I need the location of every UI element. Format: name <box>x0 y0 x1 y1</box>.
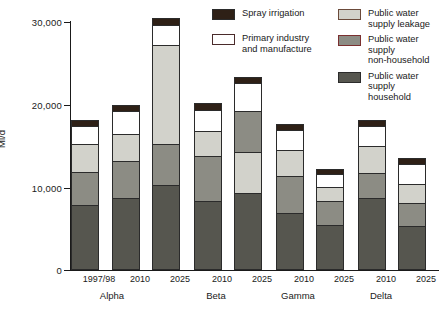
bar-segment <box>235 112 261 153</box>
bar-Alpha-2025[interactable] <box>152 18 180 270</box>
bar-segment <box>195 132 221 157</box>
bar-Delta-2010[interactable] <box>358 120 386 270</box>
bar-segment <box>277 177 303 214</box>
bar-segment <box>113 162 139 199</box>
x-group-label-alpha: Alpha <box>72 290 152 301</box>
legend-swatch-icon <box>338 72 361 83</box>
legend-item[interactable]: Public water supply household <box>338 71 446 103</box>
bar-segment <box>72 127 98 145</box>
chart-root: 30,000 20,000 10,000 0 Ml/d 1997/9820102… <box>0 0 447 321</box>
bar-segment <box>195 157 221 202</box>
bar-segment <box>277 131 303 151</box>
legend-column-right: Public water supply leakagePublic water … <box>338 8 446 107</box>
y-tick-label-10000: 10,000 <box>32 183 62 194</box>
legend-label: Public water supply household <box>368 71 446 103</box>
bar-segment <box>399 165 425 185</box>
bar-Beta-2025[interactable] <box>234 77 262 270</box>
bar-Delta-2025[interactable] <box>398 158 426 270</box>
bar-segment <box>153 46 179 145</box>
legend-swatch-icon <box>212 34 235 45</box>
bar-segment <box>277 151 303 177</box>
bar-Gamma-2025[interactable] <box>316 169 344 270</box>
legend-label: Public water supply leakage <box>368 8 446 29</box>
bar-Alpha-1997/98[interactable] <box>71 120 99 270</box>
bar-segment <box>153 186 179 269</box>
x-group-label-delta: Delta <box>341 290 421 301</box>
x-group-label-gamma: Gamma <box>258 290 338 301</box>
bar-segment <box>113 199 139 269</box>
bar-segment <box>399 227 425 269</box>
bar-segment <box>153 145 179 186</box>
bar-segment <box>317 202 343 226</box>
legend-swatch-icon <box>338 35 361 46</box>
legend-swatch-icon <box>338 9 361 20</box>
y-tick-label-20000: 20,000 <box>32 100 62 111</box>
bar-segment <box>72 173 98 206</box>
y-tick-mark-10000 <box>64 188 71 189</box>
y-axis-title: Ml/d <box>0 130 7 148</box>
chart-legend: Spray irrigationPrimary industry and man… <box>212 8 444 100</box>
bar-Beta-2010[interactable] <box>194 103 222 270</box>
legend-swatch-icon <box>212 9 235 20</box>
bar-segment <box>113 112 139 135</box>
bar-segment <box>72 145 98 173</box>
y-axis-labels: 30,000 20,000 10,000 0 <box>0 0 62 321</box>
bar-segment <box>317 188 343 202</box>
y-tick-mark-30000 <box>64 22 71 23</box>
bar-segment <box>359 174 385 199</box>
bar-segment <box>195 104 221 111</box>
legend-item[interactable]: Public water supply leakage <box>338 8 446 29</box>
bar-Gamma-2010[interactable] <box>276 124 304 270</box>
legend-item[interactable]: Public water supply non-household <box>338 34 446 66</box>
bar-segment <box>399 204 425 227</box>
bar-segment <box>153 19 179 26</box>
bar-segment <box>72 206 98 269</box>
bar-segment <box>195 202 221 269</box>
bar-segment <box>359 127 385 147</box>
bar-segment <box>359 147 385 174</box>
bar-segment <box>195 111 221 132</box>
y-tick-mark-20000 <box>64 105 71 106</box>
y-tick-label-30000: 30,000 <box>32 17 62 28</box>
legend-label: Primary industry and manufacture <box>242 33 334 54</box>
legend-column-left: Spray irrigationPrimary industry and man… <box>212 8 334 59</box>
bar-segment <box>153 26 179 46</box>
bar-segment <box>359 199 385 269</box>
legend-label: Public water supply non-household <box>368 34 446 66</box>
bar-segment <box>235 194 261 269</box>
bar-segment <box>399 185 425 204</box>
bar-Alpha-2010[interactable] <box>112 105 140 270</box>
legend-label: Spray irrigation <box>242 8 334 19</box>
bar-segment <box>235 153 261 194</box>
bar-segment <box>113 135 139 162</box>
legend-item[interactable]: Primary industry and manufacture <box>212 33 334 54</box>
y-tick-mark-0 <box>64 270 71 271</box>
bar-segment <box>317 226 343 269</box>
legend-item[interactable]: Spray irrigation <box>212 8 334 28</box>
x-tick-label: 2025 <box>400 274 447 284</box>
x-axis-line <box>70 270 439 271</box>
y-tick-label-0: 0 <box>57 265 62 276</box>
bar-segment <box>277 214 303 269</box>
bar-segment <box>317 175 343 188</box>
x-group-label-beta: Beta <box>176 290 256 301</box>
